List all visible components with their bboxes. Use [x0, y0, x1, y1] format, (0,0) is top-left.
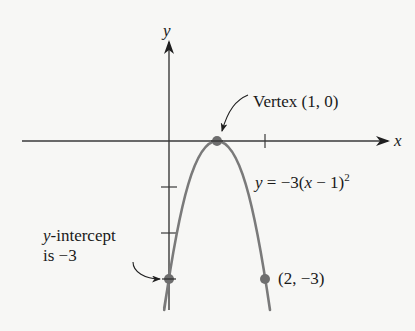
- equation-part: = −3(: [263, 173, 305, 192]
- yint-line2: is −3: [43, 246, 116, 266]
- vertex-arrow: [222, 95, 248, 131]
- equation-label: y = −3(x − 1)2: [255, 172, 350, 191]
- parabola-figure: y x Vertex (1, 0) y = −3(x − 1)2 y-inter…: [0, 0, 415, 331]
- equation-exponent: 2: [344, 171, 350, 183]
- yint-line1: -intercept: [51, 226, 116, 245]
- yint-var: y: [43, 226, 51, 245]
- equation-part-rest: − 1): [312, 173, 344, 192]
- equation-var-y: y: [255, 173, 263, 192]
- equation-var-x: x: [304, 173, 312, 192]
- point-2-minus-3: [260, 274, 270, 284]
- vertex-annotation: Vertex (1, 0): [253, 93, 338, 110]
- y-axis-label: y: [163, 22, 171, 39]
- y-intercept-annotation: y-intercept is −3: [43, 226, 116, 266]
- yint-arrow: [133, 262, 160, 279]
- chart-canvas: [0, 0, 415, 331]
- point-annotation: (2, −3): [278, 270, 324, 287]
- parabola-curve: [164, 141, 270, 310]
- x-axis-label: x: [394, 132, 402, 149]
